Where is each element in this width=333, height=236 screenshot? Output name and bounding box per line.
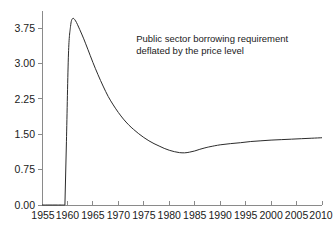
x-axis-tick-label: 1985 [183,209,207,221]
x-axis-tick-label: 1955 [31,209,55,221]
chart-plot-area: 0.000.751.502.253.003.75 195519601965197… [0,0,333,236]
y-axis-tick-label: 0.75 [15,163,36,175]
annotation-line-2: deflated by the price level [136,45,244,56]
y-axis-tick-label: 3.00 [15,57,36,69]
y-axis-tick-label: 2.25 [15,93,36,105]
x-axis-tick-label: 1970 [107,209,131,221]
y-axis-tick-label: 1.50 [15,128,36,140]
x-axis-tick-label: 1990 [209,209,233,221]
chart-container: 0.000.751.502.253.003.75 195519601965197… [0,0,333,236]
x-axis-tick-label: 1975 [132,209,156,221]
x-axis-tick-label: 2010 [309,209,333,221]
x-axis-tick-label: 2000 [259,209,283,221]
annotation-line-1: Public sector borrowing requirement [136,33,288,44]
x-axis-tick-label: 1995 [234,209,258,221]
x-axis-tick-label: 1960 [56,209,80,221]
x-axis-tick-label: 2005 [285,209,309,221]
x-axis-tick-label: 1980 [158,209,182,221]
y-axis-tick-label: 3.75 [15,22,36,34]
x-axis-tick-label: 1965 [81,209,105,221]
